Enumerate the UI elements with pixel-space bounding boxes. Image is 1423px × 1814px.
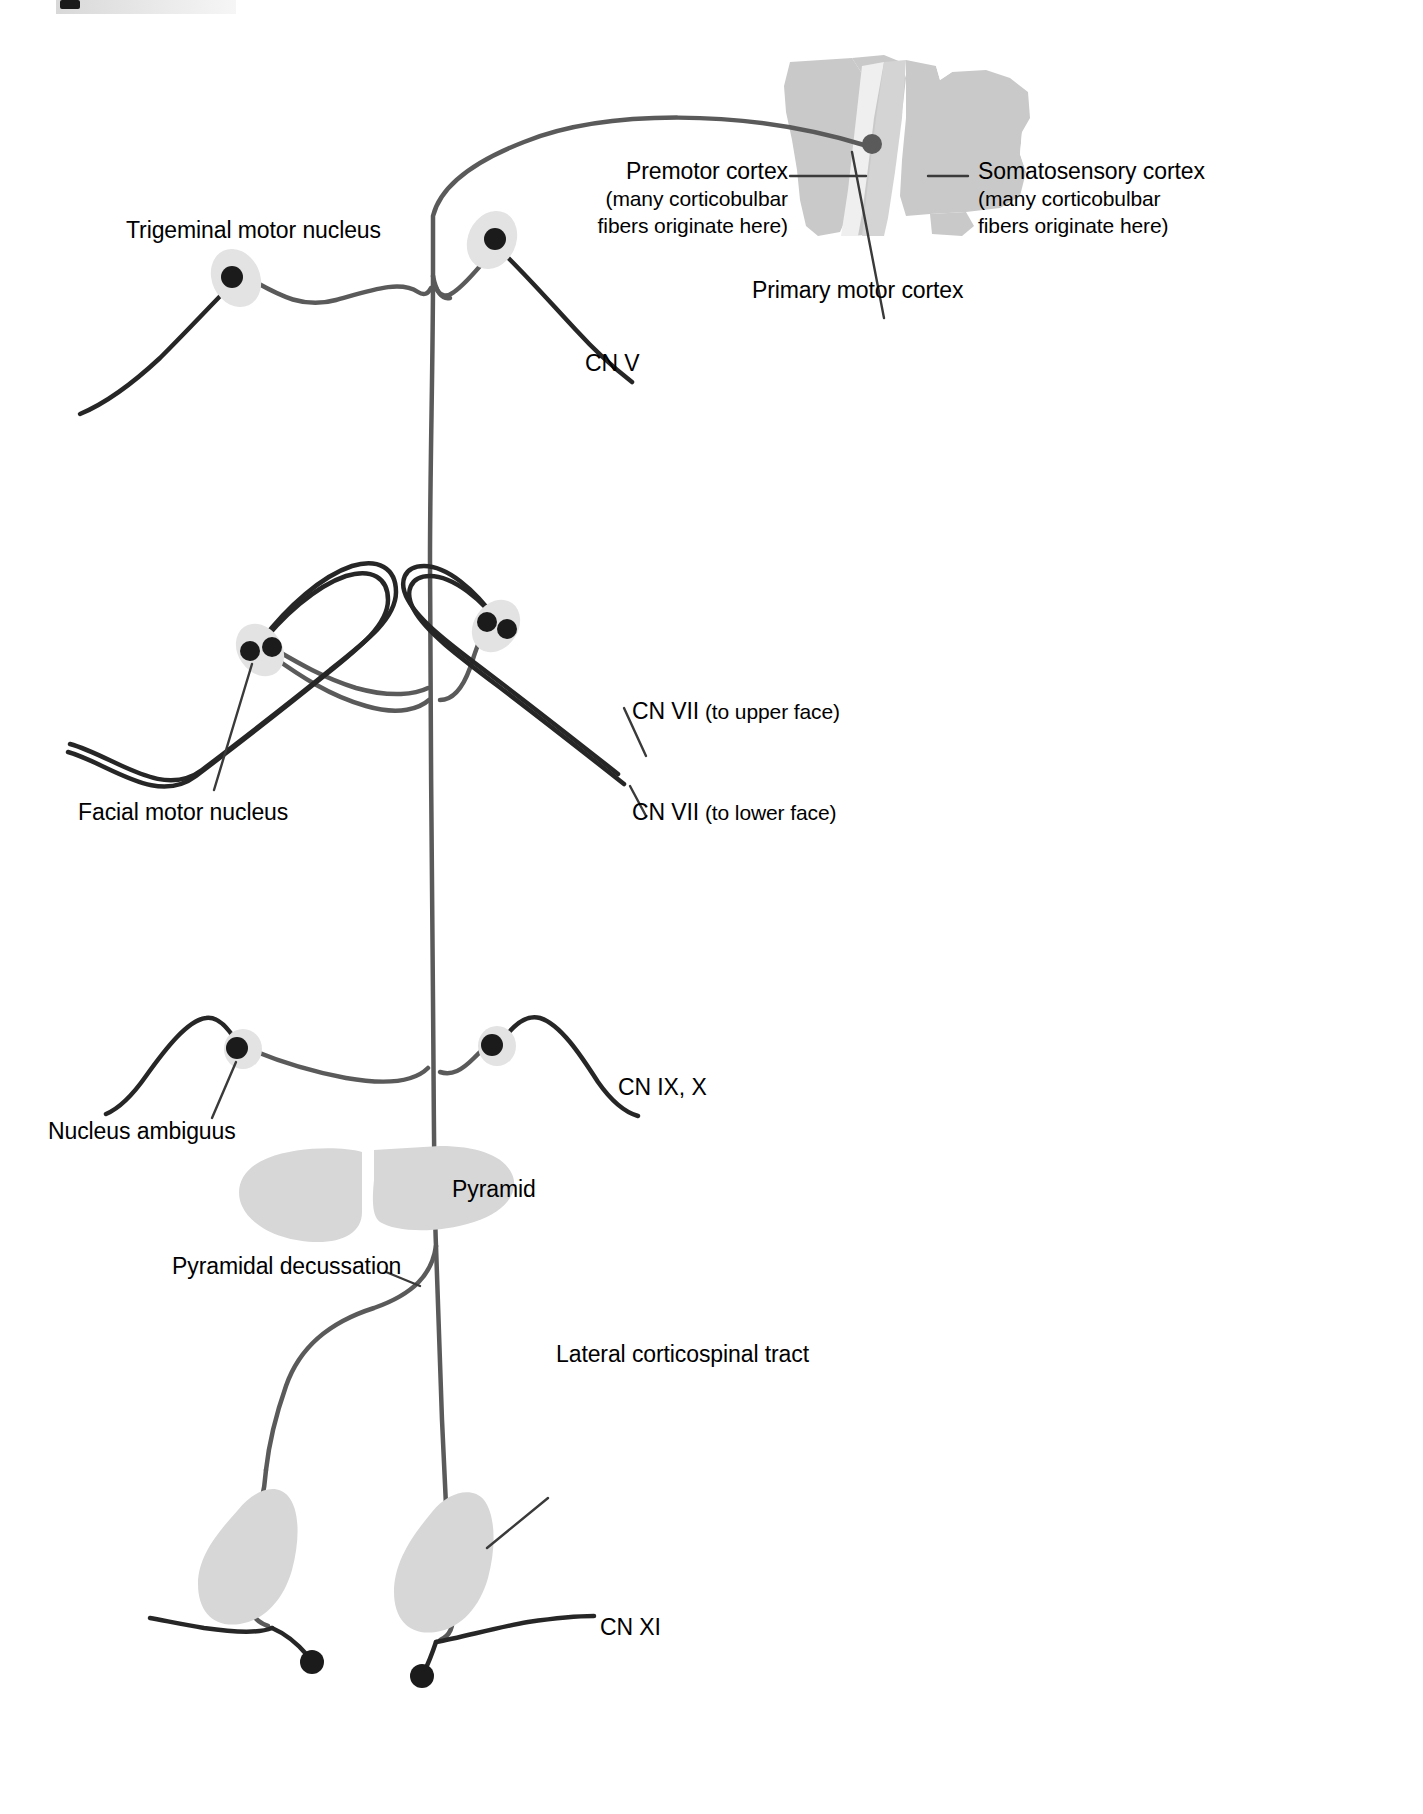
nuclei-group: [202, 203, 531, 1688]
pyramid-left-shape: [239, 1148, 362, 1242]
label-cn-vii-upper: CN VII (to upper face): [632, 697, 840, 726]
nucleus-ambiguus-left-soma: [226, 1037, 248, 1059]
label-cn-xi: CN XI: [600, 1613, 661, 1641]
label-somatosensory-cortex-note-1: (many corticobulbar: [978, 185, 1205, 212]
lateral-corticospinal-tract-right-shape: [394, 1492, 494, 1632]
facial-motor-nucleus-right-soma-lower: [497, 619, 517, 639]
label-somatosensory-cortex: Somatosensory cortex (many corticobulbar…: [978, 157, 1205, 239]
leader-nucleus-ambiguus: [212, 1062, 236, 1118]
leader-facial-motor-nucleus: [214, 664, 252, 790]
label-premotor-cortex-note-2: fibers originate here): [380, 212, 788, 239]
cn-vii-left-outer-loop: [68, 573, 388, 786]
spinal-cord-group: [198, 1489, 494, 1633]
facial-motor-nucleus-right-soma-upper: [477, 612, 497, 632]
facial-motor-nucleus-left-soma-upper: [240, 641, 260, 661]
cn-ix-x-left-axon: [106, 1018, 242, 1114]
label-premotor-cortex-title: Premotor cortex: [626, 158, 788, 184]
cn-vii-right-outer-loop: [403, 566, 618, 774]
facial-motor-nucleus-left-halo: [226, 614, 294, 685]
cn-ix-x-right-axon: [500, 1017, 638, 1116]
umn-branch-to-ambiguus-left: [252, 1050, 428, 1082]
label-premotor-cortex-note-1: (many corticobulbar: [380, 185, 788, 212]
leader-lateral-corticospinal-tract: [487, 1498, 548, 1548]
label-cn-vii-lower-main: CN VII: [632, 799, 699, 825]
figure-root: Trigeminal motor nucleus Premotor cortex…: [0, 0, 1423, 1814]
cn-xi-left-distal: [272, 1628, 308, 1656]
upper-motor-neuron-group: [245, 118, 882, 1640]
facial-motor-nucleus-left-soma-lower: [262, 637, 282, 657]
trigeminal-motor-nucleus-left-soma: [221, 266, 243, 288]
label-cn-v: CN V: [585, 349, 640, 377]
label-somatosensory-cortex-note-2: fibers originate here): [978, 212, 1205, 239]
nucleus-ambiguus-right-soma: [481, 1034, 503, 1056]
spinal-accessory-nucleus-right-soma: [410, 1664, 434, 1688]
label-primary-motor-cortex: Primary motor cortex: [752, 276, 963, 304]
label-lateral-corticospinal-tract: Lateral corticospinal tract: [556, 1340, 809, 1368]
umn-branch-to-facial-left: [272, 656, 429, 711]
label-somatosensory-cortex-title: Somatosensory cortex: [978, 158, 1205, 184]
label-cn-vii-lower-qualifier: (to lower face): [705, 801, 837, 824]
label-pyramidal-decussation: Pyramidal decussation: [172, 1252, 401, 1280]
cn-vii-left-inner-loop: [70, 563, 396, 780]
label-cn-ix-x: CN IX, X: [618, 1073, 707, 1101]
lateral-corticospinal-tract-left-shape: [198, 1489, 298, 1625]
label-cn-vii-lower: CN VII (to lower face): [632, 798, 836, 827]
label-cn-vii-upper-qualifier: (to upper face): [705, 700, 840, 723]
label-cn-vii-upper-main: CN VII: [632, 698, 699, 724]
lower-motor-neuron-group: [68, 244, 638, 1672]
corticobulbar-descending-trunk: [430, 276, 436, 1246]
cn-xi-left-axon: [150, 1618, 272, 1632]
umn-branch-to-trigeminal-left: [248, 278, 431, 303]
cn-v-left-axon: [80, 282, 234, 414]
label-facial-motor-nucleus: Facial motor nucleus: [78, 798, 288, 826]
cortex-lower-edge-bump: [930, 212, 974, 236]
spinal-accessory-nucleus-left-soma: [300, 1650, 324, 1674]
label-pyramid: Pyramid: [452, 1175, 536, 1203]
label-premotor-cortex: Premotor cortex (many corticobulbar fibe…: [380, 157, 788, 239]
anatomy-illustration: [0, 0, 1423, 1814]
label-nucleus-ambiguus: Nucleus ambiguus: [48, 1117, 236, 1145]
label-trigeminal-motor-nucleus: Trigeminal motor nucleus: [126, 216, 381, 244]
